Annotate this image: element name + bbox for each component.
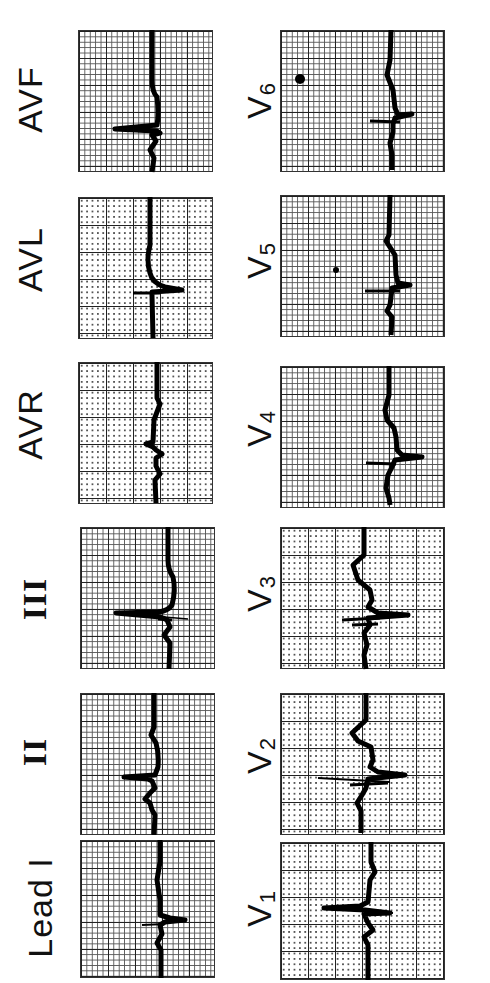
lead-v4-trace bbox=[240, 340, 490, 505]
lead-v2-trace bbox=[240, 675, 490, 840]
lead-avl-trace bbox=[0, 175, 240, 340]
lead-v4-panel: V4 bbox=[240, 340, 490, 505]
lead-v3-panel: V3 bbox=[240, 505, 490, 675]
lead-v3-trace bbox=[240, 505, 490, 675]
lead-v1-panel: V1 bbox=[240, 840, 490, 983]
lead-v6-trace bbox=[240, 0, 490, 175]
lead-avf-panel: AVF bbox=[0, 0, 240, 175]
lead-avr-panel: AVR bbox=[0, 340, 240, 505]
artifact-dot-icon bbox=[333, 267, 339, 273]
lead-avr-trace bbox=[0, 340, 240, 505]
lead-avf-trace bbox=[0, 0, 240, 175]
lead-avl-panel: AVL bbox=[0, 175, 240, 340]
lead-v1-trace bbox=[240, 840, 490, 983]
lead-i-trace bbox=[0, 840, 240, 983]
artifact-dot-icon bbox=[295, 74, 305, 84]
lead-v5-panel: V5 bbox=[240, 175, 490, 340]
lead-iii-panel: III bbox=[0, 505, 240, 675]
lead-iii-trace bbox=[0, 505, 240, 675]
lead-ii-panel: II bbox=[0, 675, 240, 840]
lead-v5-trace bbox=[240, 175, 490, 340]
lead-v2-panel: V2 bbox=[240, 675, 490, 840]
lead-i-panel: Lead I bbox=[0, 840, 240, 983]
lead-ii-trace bbox=[0, 675, 240, 840]
lead-v6-panel: V6 bbox=[240, 0, 490, 175]
